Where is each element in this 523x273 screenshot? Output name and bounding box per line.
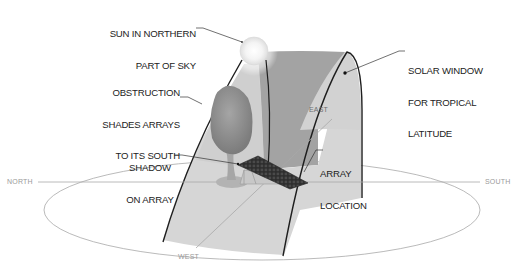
solar-window-callout-line3: LATITUDE — [408, 129, 518, 140]
obstruction-callout-line1: OBSTRUCTION — [80, 88, 180, 99]
tree-icon — [210, 86, 252, 154]
shadow-callout-line2: ON ARRAY — [120, 195, 180, 206]
solar-window-callout-line2: FOR TROPICAL — [408, 98, 518, 109]
array-location-callout-line2: LOCATION — [320, 201, 390, 212]
obstruction-callout-line2: SHADES ARRAYS — [80, 120, 180, 131]
west-label: WEST — [178, 253, 199, 260]
shadow-callout-line1: SHADOW — [120, 163, 180, 174]
sun-icon — [240, 37, 268, 65]
solar-window-callout-line1: SOLAR WINDOW — [408, 66, 518, 77]
array-location-callout: ARRAY LOCATION — [320, 148, 390, 222]
solar-window-callout: SOLAR WINDOW FOR TROPICAL LATITUDE — [408, 45, 518, 150]
east-label: EAST — [309, 106, 328, 113]
shadow-callout: SHADOW ON ARRAY — [120, 142, 180, 216]
array-location-callout-line1: ARRAY — [320, 169, 390, 180]
north-label: NORTH — [7, 178, 33, 185]
south-label: SOUTH — [485, 178, 511, 185]
sun-callout-line1: SUN IN NORTHERN — [100, 29, 196, 40]
obstruction-leader — [180, 97, 202, 104]
